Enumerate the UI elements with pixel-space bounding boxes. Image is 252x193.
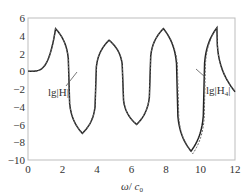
y-tick-label: 4: [20, 30, 26, 42]
y-tick-label: −2: [13, 83, 25, 95]
y-tick-label: −8: [13, 136, 25, 148]
annotation-leader-H: [66, 72, 77, 86]
line-chart: 6420−2−4−6−8−10 024681012 lg|H| lg|H4| ω…: [0, 0, 252, 193]
x-tick-label: 2: [60, 163, 66, 175]
y-tick-label: 2: [20, 48, 26, 60]
x-tick-label: 4: [94, 163, 100, 175]
y-tick-label: 0: [20, 65, 26, 77]
x-tick-label: 8: [163, 163, 169, 175]
x-tick-label: 12: [230, 163, 241, 175]
annotation-lg-H4: lg|H4|: [206, 84, 230, 98]
y-axis-ticks: 6420−2−4−6−8−10: [8, 12, 26, 166]
x-axis-label: ω/ c0: [121, 180, 143, 193]
y-tick-label: −6: [13, 119, 25, 131]
y-tick-label: −4: [13, 101, 25, 113]
x-tick-label: 10: [195, 163, 207, 175]
y-tick-label: −10: [8, 154, 26, 166]
annotation-lg-H: lg|H|: [48, 86, 69, 98]
x-tick-label: 0: [25, 163, 31, 175]
x-axis-ticks: 024681012: [25, 163, 240, 175]
x-tick-label: 6: [129, 163, 135, 175]
y-tick-label: 6: [20, 12, 26, 24]
